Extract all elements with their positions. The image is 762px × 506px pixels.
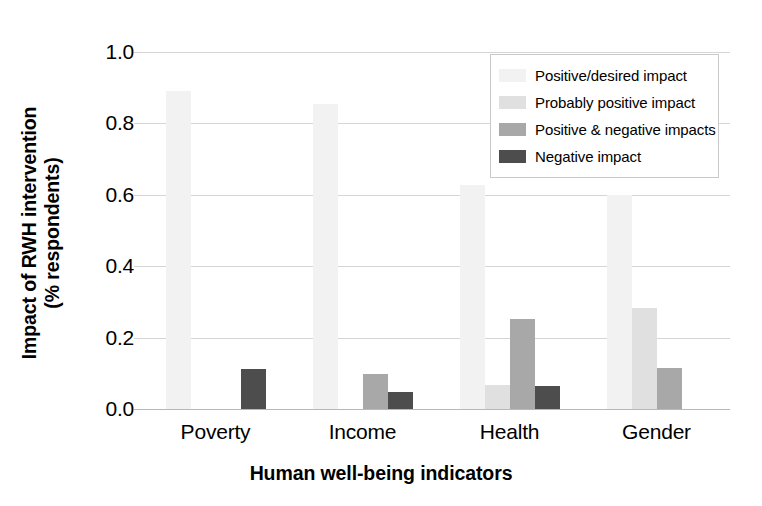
y-axis-title-line-2: (% respondents) — [41, 106, 64, 359]
legend-label: Negative impact — [535, 148, 641, 165]
y-axis-title-container: Impact of RWH intervention (% respondent… — [0, 0, 82, 506]
y-tick-label: 0.8 — [78, 111, 134, 135]
y-tick-label: 0.6 — [78, 183, 134, 207]
y-tick-label: 0.2 — [78, 326, 134, 350]
legend-swatch-icon — [499, 123, 526, 136]
legend-label: Probably positive impact — [535, 94, 695, 111]
x-axis-line — [134, 409, 730, 410]
x-tick-label: Income — [329, 420, 397, 444]
bar — [535, 386, 560, 409]
y-axis-tick-labels: 0.00.20.40.60.81.0 — [78, 0, 134, 506]
legend-swatch-icon — [499, 96, 526, 109]
legend-swatch-icon — [499, 150, 526, 163]
legend-label: Positive/desired impact — [535, 67, 687, 84]
y-tick-label: 0.4 — [78, 254, 134, 278]
y-tick-label: 1.0 — [78, 40, 134, 64]
y-tick-label: 0.0 — [78, 397, 134, 421]
legend-swatch-icon — [499, 69, 526, 82]
bar — [657, 368, 682, 409]
legend: Positive/desired impactProbably positive… — [490, 54, 719, 178]
bar — [632, 308, 657, 409]
bar — [363, 374, 388, 409]
bar — [510, 319, 535, 409]
y-axis-title-line-1: Impact of RWH intervention — [18, 106, 40, 359]
gridline — [134, 266, 730, 267]
bar — [241, 369, 266, 409]
bar — [388, 392, 413, 409]
x-axis-title: Human well-being indicators — [0, 462, 762, 485]
gridline — [134, 195, 730, 196]
bar — [313, 104, 338, 409]
bar — [166, 91, 191, 409]
y-axis-title: Impact of RWH intervention (% respondent… — [18, 106, 64, 359]
legend-item: Positive/desired impact — [499, 62, 710, 89]
bar — [460, 185, 485, 409]
bar — [485, 385, 510, 409]
bar — [607, 195, 632, 409]
legend-item: Probably positive impact — [499, 89, 710, 116]
legend-item: Negative impact — [499, 143, 710, 170]
bar-chart-figure: Impact of RWH intervention (% respondent… — [0, 0, 762, 506]
gridline — [134, 52, 730, 53]
x-tick-label: Health — [480, 420, 540, 444]
x-tick-label: Poverty — [181, 420, 251, 444]
legend-label: Positive & negative impacts — [535, 121, 716, 138]
x-tick-label: Gender — [622, 420, 691, 444]
legend-item: Positive & negative impacts — [499, 116, 710, 143]
